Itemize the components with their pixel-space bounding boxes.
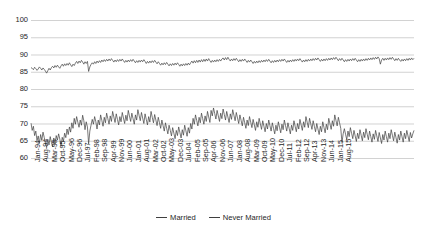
x-axis: Jan-94Aug-94Mar-95Oct-95May-96Dec-96Jul-…: [0, 0, 427, 232]
x-tick-label: Apr-99: [110, 140, 118, 162]
x-tick-label: Apr-13: [311, 140, 319, 162]
x-tick-label: Jun-00: [126, 140, 134, 162]
legend-line-swatch: [209, 217, 220, 218]
x-tick-label: Jun-14: [328, 140, 336, 162]
x-tick-label: Aug-94: [42, 139, 50, 162]
legend-line-swatch: [156, 217, 167, 218]
x-tick-label: Jul-11: [286, 143, 294, 162]
x-tick-label: Aug-01: [143, 139, 151, 162]
legend-entry-never-married[interactable]: Never Married: [209, 213, 271, 222]
x-tick-label: Oct-95: [59, 140, 67, 162]
x-tick-label: Sep-98: [101, 139, 109, 162]
x-tick-label: Jan-15: [337, 140, 345, 162]
x-tick-label: May-10: [269, 138, 277, 162]
x-tick-label: Jul-04: [185, 142, 193, 162]
x-tick-label: May-03: [168, 138, 176, 162]
x-tick-label: Jun-07: [227, 140, 235, 162]
x-tick-label: Aug-15: [345, 139, 353, 162]
x-tick-label: Feb-12: [295, 139, 303, 162]
legend-label: Married: [170, 213, 196, 222]
legend-label: Never Married: [223, 213, 271, 222]
x-tick-label: Jul-97: [84, 142, 92, 162]
x-tick-label: Apr-06: [210, 140, 218, 162]
x-tick-label: May-96: [68, 138, 76, 162]
x-tick-label: Mar-09: [253, 139, 261, 162]
chart-container: 1009590858075706560 Jan-94Aug-94Mar-95Oc…: [0, 0, 427, 232]
legend-entry-married[interactable]: Married: [156, 213, 196, 222]
x-tick-label: Aug-08: [244, 139, 252, 162]
chart-legend: MarriedNever Married: [0, 210, 427, 224]
